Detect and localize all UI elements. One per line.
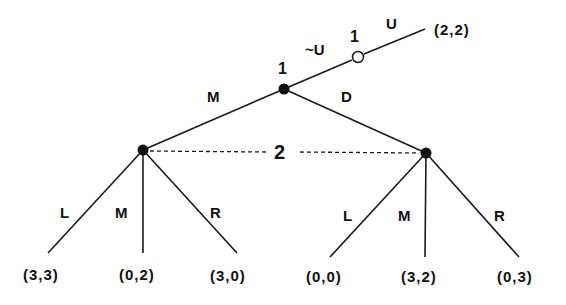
action-not-u-label: ~U bbox=[305, 41, 325, 58]
payoff-u: (2,2) bbox=[434, 21, 470, 38]
edge-left-r bbox=[143, 150, 237, 253]
edge-left-l bbox=[48, 150, 143, 253]
action-right-l-label: L bbox=[343, 207, 352, 224]
outside-node-player-label: 1 bbox=[350, 28, 359, 45]
action-d-label: D bbox=[341, 88, 352, 105]
action-left-l-label: L bbox=[60, 204, 69, 221]
action-u-label: U bbox=[386, 15, 397, 32]
payoff-mr: (3,0) bbox=[210, 267, 246, 284]
edge-u bbox=[364, 29, 425, 54]
information-set-line-right bbox=[300, 152, 419, 153]
edge-d bbox=[284, 89, 426, 153]
information-set-line-left bbox=[150, 151, 266, 152]
player2-right-node bbox=[421, 148, 432, 159]
payoff-dm: (3,2) bbox=[401, 268, 437, 285]
action-right-m-label: M bbox=[398, 207, 411, 224]
edge-right-l bbox=[330, 153, 426, 257]
payoff-dr: (0,3) bbox=[497, 268, 533, 285]
action-m-label: M bbox=[207, 88, 220, 105]
game-tree-diagram: 1 1 2 ~U U M D L M R L M R (2,2) (3,3) (… bbox=[0, 0, 566, 305]
payoff-dl: (0,0) bbox=[306, 268, 342, 285]
edge-right-m bbox=[425, 153, 426, 257]
action-left-m-label: M bbox=[115, 204, 128, 221]
outside-option-node bbox=[353, 52, 364, 63]
payoff-ml: (3,3) bbox=[23, 266, 59, 283]
payoff-mm: (0,2) bbox=[119, 266, 155, 283]
action-right-r-label: R bbox=[494, 207, 505, 224]
information-set-label: 2 bbox=[274, 141, 285, 163]
root-node bbox=[279, 84, 290, 95]
root-player-label: 1 bbox=[278, 60, 287, 77]
edge-not-u bbox=[284, 60, 352, 89]
edge-right-r bbox=[426, 153, 519, 257]
action-left-r-label: R bbox=[210, 204, 221, 221]
player2-left-node bbox=[138, 145, 149, 156]
